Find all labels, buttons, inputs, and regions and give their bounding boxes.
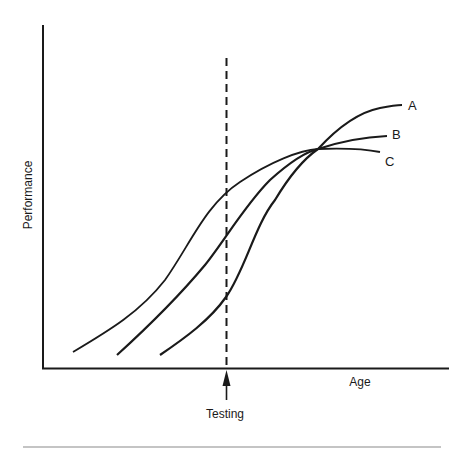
testing-label: Testing (206, 407, 244, 421)
curve-label-a: A (408, 98, 417, 113)
y-axis-label: Performance (21, 160, 35, 229)
x-axis-label: Age (349, 375, 371, 389)
testing-arrow-icon (223, 370, 231, 400)
performance-age-diagram: A B C Performance Age Testing (0, 0, 471, 449)
curve-label-c: C (385, 154, 394, 169)
curve-label-b: B (392, 127, 401, 142)
